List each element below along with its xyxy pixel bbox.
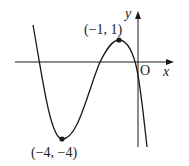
minimum-point <box>59 136 64 141</box>
minimum-label: (−4, −4) <box>31 145 77 161</box>
maximum-point <box>116 37 121 42</box>
y-axis-arrow-icon <box>135 11 141 19</box>
graph-canvas: (−1, 1) (−4, −4) O x y <box>0 0 189 166</box>
origin-label: O <box>140 63 150 78</box>
maximum-label: (−1, 1) <box>84 22 123 38</box>
x-axis-label: x <box>162 64 170 79</box>
cubic-curve <box>33 25 147 147</box>
y-axis-label: y <box>123 6 132 21</box>
